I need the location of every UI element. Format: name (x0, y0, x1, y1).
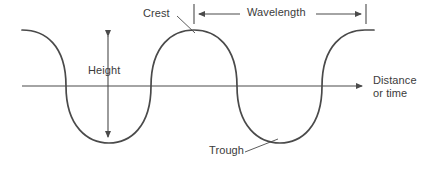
crest-label: Crest (143, 7, 170, 20)
trough-label: Trough (209, 144, 244, 157)
trough-leader-line (245, 139, 278, 152)
height-label: Height (88, 64, 120, 77)
wavelength-label: Wavelength (247, 6, 306, 19)
axis-label-line-2: or time (373, 87, 417, 100)
axis-label-distance-or-time: Distance or time (373, 74, 417, 100)
wave-diagram: Crest Wavelength Height Trough Distance … (0, 0, 425, 173)
axis-label-line-1: Distance (373, 74, 417, 86)
